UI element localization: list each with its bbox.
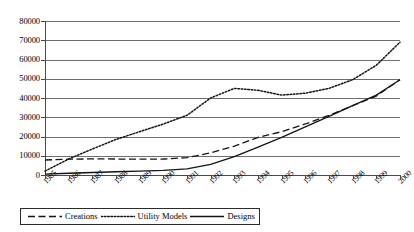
line-chart: 0100002000030000400005000060000700008000… (0, 0, 414, 232)
legend-swatch-dashed (28, 212, 62, 221)
legend-swatch-dotted (101, 212, 135, 221)
legend-swatch-solid (190, 212, 224, 221)
legend-item-designs[interactable]: Designs (187, 212, 254, 221)
series-lines (45, 21, 400, 175)
legend-item-creations[interactable]: Creations (25, 212, 98, 221)
y-axis-tick-label: 80000 (0, 17, 40, 26)
y-axis-tick-label: 10000 (0, 151, 40, 160)
legend-label: Creations (65, 212, 98, 221)
y-axis-tick-label: 50000 (0, 74, 40, 83)
y-axis-tick-label: 20000 (0, 132, 40, 141)
legend-label: Utility Models (138, 212, 188, 221)
legend-item-utility-models[interactable]: Utility Models (98, 212, 188, 221)
y-axis-tick-label: 40000 (0, 94, 40, 103)
series-line-utility-models (45, 42, 400, 171)
legend-label: Designs (227, 212, 254, 221)
y-axis-tick-label: 70000 (0, 36, 40, 45)
series-line-creations (45, 80, 400, 160)
y-axis-tick-label: 0 (0, 171, 40, 180)
y-axis-tick-label: 60000 (0, 55, 40, 64)
y-axis-tick-label: 30000 (0, 113, 40, 122)
chart-legend: CreationsUtility ModelsDesigns (20, 208, 260, 225)
